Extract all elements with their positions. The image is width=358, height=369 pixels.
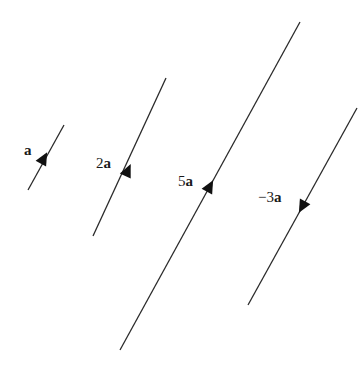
- arrowhead-icon: [202, 180, 214, 194]
- vector-a: a: [24, 125, 64, 190]
- vector-label: a: [24, 142, 32, 158]
- vector-5a: 5a: [120, 22, 300, 350]
- vector-label: −3a: [258, 189, 282, 205]
- arrowhead-icon: [36, 152, 48, 166]
- vector-diagram: a2a5a−3a: [0, 0, 358, 369]
- vector-neg3a: −3a: [248, 108, 357, 305]
- vector-2a: 2a: [93, 78, 166, 236]
- vector-label: 5a: [178, 173, 194, 189]
- arrowhead-icon: [299, 198, 311, 212]
- vector-label: 2a: [96, 155, 112, 171]
